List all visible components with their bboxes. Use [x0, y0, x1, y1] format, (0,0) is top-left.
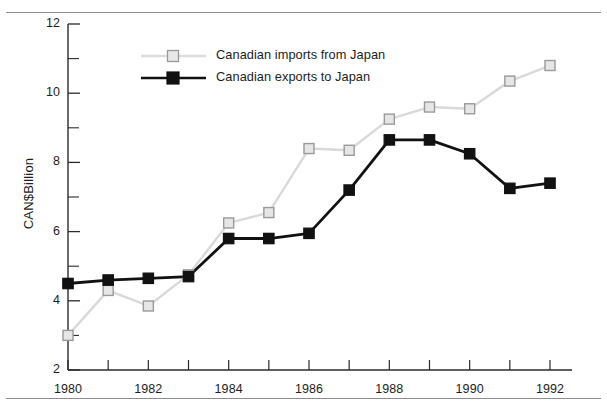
legend-item-imports: Canadian imports from Japan: [140, 46, 440, 66]
data-point-exports-1992: [545, 178, 555, 188]
data-point-exports-1983: [183, 271, 193, 281]
y-tick-label-12: 12: [30, 16, 60, 30]
data-point-exports-1984: [223, 233, 233, 243]
y-tick-label-6: 6: [30, 224, 60, 238]
line-chart: CAN$Billion 24681012 1980198219841986198…: [0, 0, 607, 413]
data-point-imports-1989: [425, 102, 435, 112]
series-group: [63, 61, 555, 341]
data-point-imports-1992: [545, 61, 555, 71]
legend-swatch-imports: [140, 46, 207, 66]
data-point-imports-1990: [465, 104, 475, 114]
data-point-exports-1980: [63, 278, 73, 288]
legend-item-exports: Canadian exports to Japan: [140, 68, 440, 88]
data-point-exports-1981: [103, 275, 113, 285]
data-point-imports-1981: [103, 285, 113, 295]
chart-legend: Canadian imports from Japan Canadian exp…: [140, 46, 440, 90]
series-line-exports: [68, 140, 550, 284]
data-point-imports-1982: [143, 301, 153, 311]
data-point-imports-1991: [505, 76, 515, 86]
y-tick-label-2: 2: [30, 362, 60, 376]
data-point-exports-1990: [464, 149, 474, 159]
data-point-exports-1986: [304, 228, 314, 238]
x-tick-label-1992: 1992: [520, 382, 580, 396]
y-tick-label-8: 8: [30, 154, 60, 168]
data-point-exports-1985: [264, 233, 274, 243]
legend-label-imports: Canadian imports from Japan: [216, 47, 385, 62]
legend-label-exports: Canadian exports to Japan: [216, 69, 370, 84]
data-point-exports-1989: [424, 135, 434, 145]
data-point-exports-1988: [384, 135, 394, 145]
data-point-exports-1982: [143, 273, 153, 283]
data-point-imports-1988: [384, 114, 394, 124]
x-tick-label-1982: 1982: [118, 382, 178, 396]
chart-page: CAN$Billion 24681012 1980198219841986198…: [0, 0, 607, 413]
y-tick-label-10: 10: [30, 85, 60, 99]
x-tick-label-1984: 1984: [199, 382, 259, 396]
series-line-imports: [68, 66, 550, 336]
x-tick-label-1990: 1990: [440, 382, 500, 396]
x-tick-label-1980: 1980: [38, 382, 98, 396]
y-tick-label-4: 4: [30, 293, 60, 307]
data-point-exports-1987: [344, 185, 354, 195]
data-point-imports-1987: [344, 145, 354, 155]
data-point-imports-1985: [264, 208, 274, 218]
data-point-imports-1984: [224, 218, 234, 228]
data-point-imports-1980: [63, 330, 73, 340]
x-tick-label-1988: 1988: [359, 382, 419, 396]
legend-swatch-exports: [140, 68, 207, 88]
data-point-exports-1991: [505, 183, 515, 193]
x-tick-label-1986: 1986: [279, 382, 339, 396]
data-point-imports-1986: [304, 144, 314, 154]
